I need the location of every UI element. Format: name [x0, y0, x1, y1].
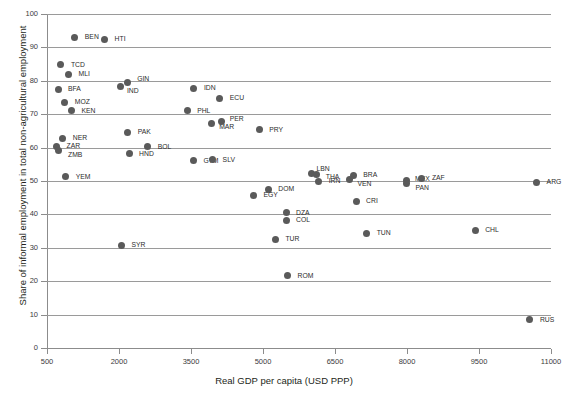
data-label-rom: ROM — [297, 272, 313, 279]
y-tick-label-70: 70 — [0, 110, 38, 118]
data-label-gin: GIN — [137, 75, 149, 82]
data-point-phl — [184, 107, 191, 114]
x-tick-2000 — [119, 349, 120, 354]
x-tick-label-5000: 5000 — [233, 357, 293, 366]
data-point-arg — [533, 179, 540, 186]
data-point-syr — [118, 242, 125, 249]
x-axis-title: Real GDP per capita (USD PPP) — [0, 375, 568, 386]
data-point-tur — [272, 236, 279, 243]
x-tick-label-11000: 11000 — [521, 357, 568, 366]
y-tick-label-90: 90 — [0, 43, 38, 51]
data-label-zmb: ZMB — [68, 151, 82, 158]
y-tick-label-30: 30 — [0, 244, 38, 252]
gridline-90 — [47, 47, 551, 48]
data-label-hti: HTI — [115, 35, 126, 42]
data-point-col — [283, 217, 290, 224]
data-point-rus — [526, 316, 533, 323]
data-point-ind — [117, 83, 124, 90]
y-tick-label-60: 60 — [0, 144, 38, 152]
data-point-pak — [124, 129, 131, 136]
y-tick-label-20: 20 — [0, 277, 38, 285]
data-label-lbn: LBN — [316, 165, 329, 172]
x-tick-label-500: 500 — [17, 357, 77, 366]
y-tick-label-80: 80 — [0, 77, 38, 85]
data-point-ner — [59, 135, 66, 142]
data-label-tun: TUN — [377, 229, 391, 236]
data-point-mli — [65, 71, 72, 78]
data-point-zmb — [55, 147, 62, 154]
gridline-60 — [47, 148, 551, 149]
data-point-dza — [283, 209, 290, 216]
data-label-idn: IDN — [204, 84, 216, 91]
data-label-dom: DOM — [278, 185, 294, 192]
data-label-col: COL — [296, 216, 310, 223]
data-label-hnd: HND — [139, 150, 154, 157]
x-tick-6500 — [335, 349, 336, 354]
data-point-moz — [61, 99, 68, 106]
data-point-tun — [363, 230, 370, 237]
data-label-bfa: BFA — [68, 85, 81, 92]
data-point-ecu — [216, 95, 223, 102]
gridline-20 — [47, 281, 551, 282]
data-label-syr: SYR — [131, 241, 145, 248]
data-point-ven — [346, 176, 353, 183]
data-label-phl: PHL — [197, 107, 210, 114]
data-label-ecu: ECU — [230, 94, 244, 101]
data-point-gtm — [190, 157, 197, 164]
gridline-80 — [47, 81, 551, 82]
x-tick-3500 — [191, 349, 192, 354]
data-label-pry: PRY — [269, 126, 283, 133]
data-label-zaf: ZAF — [432, 174, 445, 181]
x-tick-label-2000: 2000 — [89, 357, 149, 366]
x-tick-label-3500: 3500 — [161, 357, 221, 366]
data-point-ben — [71, 34, 78, 41]
scatter-chart: Share of informal employment in total no… — [0, 0, 568, 399]
x-tick-label-6500: 6500 — [305, 357, 365, 366]
x-tick-11000 — [551, 349, 552, 354]
data-label-bra: BRA — [363, 171, 377, 178]
data-point-hnd — [126, 150, 133, 157]
data-label-ben: BEN — [85, 33, 99, 40]
data-point-per — [218, 118, 225, 125]
data-label-tur: TUR — [285, 235, 299, 242]
data-point-yem — [62, 173, 69, 180]
data-point-chl — [472, 227, 479, 234]
data-label-dza: DZA — [296, 209, 310, 216]
data-label-per: PER — [230, 115, 244, 122]
data-label-cri: CRI — [366, 197, 378, 204]
data-label-ven: VEN — [357, 180, 371, 187]
data-label-ind: IND — [127, 87, 139, 94]
data-label-pan: PAN — [416, 184, 429, 191]
data-point-mar — [208, 120, 215, 127]
data-label-egy: EGY — [263, 191, 277, 198]
x-tick-5000 — [263, 349, 264, 354]
data-label-slv: SLV — [223, 156, 235, 163]
y-axis-title: Share of informal employment in total no… — [17, 0, 28, 346]
data-point-tcd — [57, 61, 64, 68]
x-tick-label-8000: 8000 — [377, 357, 437, 366]
data-label-moz: MOZ — [75, 98, 90, 105]
data-point-irn — [315, 178, 322, 185]
data-label-ner: NER — [73, 134, 87, 141]
data-point-bfa — [55, 86, 62, 93]
data-point-hti — [101, 36, 108, 43]
y-tick-label-10: 10 — [0, 311, 38, 319]
gridline-70 — [47, 114, 551, 115]
y-tick-label-50: 50 — [0, 177, 38, 185]
plot-area: BENHTITCDMLIBFAGININDIDNMOZECUKENPHLMARP… — [47, 14, 551, 348]
data-point-idn — [190, 85, 197, 92]
data-label-irn: IRN — [329, 177, 341, 184]
data-label-mli: MLI — [79, 70, 90, 77]
data-label-yem: YEM — [76, 173, 91, 180]
data-label-arg: ARG — [547, 178, 562, 185]
data-label-pak: PAK — [138, 128, 151, 135]
y-tick-label-0: 0 — [0, 344, 38, 352]
x-tick-9500 — [479, 349, 480, 354]
x-tick-500 — [47, 349, 48, 354]
gridline-0 — [47, 348, 551, 349]
y-tick-label-40: 40 — [0, 210, 38, 218]
data-point-gin — [124, 79, 131, 86]
gridline-50 — [47, 181, 551, 182]
data-point-rom — [284, 272, 291, 279]
x-tick-8000 — [407, 349, 408, 354]
